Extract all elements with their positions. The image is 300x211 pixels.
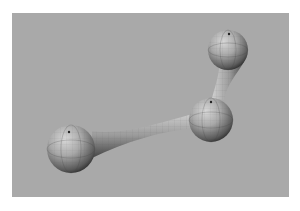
pole-marker-icon xyxy=(68,131,70,133)
molecule-render xyxy=(0,0,300,211)
pole-marker-icon xyxy=(210,101,212,103)
bond-middle-bottom-left-mesh xyxy=(92,113,196,158)
pole-marker-icon xyxy=(228,33,230,35)
atom-bottom-left xyxy=(47,125,95,173)
atom-middle xyxy=(189,98,233,142)
atom-top-right xyxy=(208,30,248,70)
